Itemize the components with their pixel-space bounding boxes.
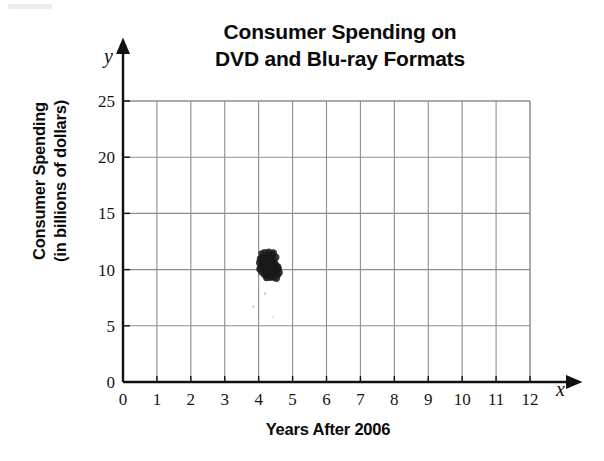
data-point [274, 271, 281, 278]
y-axis-tick-label: 5 [75, 317, 115, 337]
x-axis-tick-label: 0 [106, 390, 140, 410]
x-axis-tick-label: 1 [140, 390, 174, 410]
x-axis-tick-label: 4 [242, 390, 276, 410]
data-point [271, 263, 277, 269]
x-axis-tick-label: 3 [208, 390, 242, 410]
x-axis-tick-label: 7 [343, 390, 377, 410]
data-point [263, 273, 269, 279]
y-axis-tick-label: 15 [75, 204, 115, 224]
x-axis-tick-label: 12 [513, 390, 547, 410]
scan-artifact [264, 292, 266, 295]
x-axis-tick-label: 9 [411, 390, 445, 410]
y-axis-tick-label: 25 [75, 92, 115, 112]
data-point [269, 249, 277, 257]
data-point [258, 254, 265, 261]
x-axis-tick-label: 11 [479, 390, 513, 410]
gridlines-vertical [157, 101, 530, 382]
y-axis-tick-label: 10 [75, 261, 115, 281]
x-axis-tick-label: 2 [174, 390, 208, 410]
scan-artifact [252, 305, 255, 308]
data-point-cluster [256, 248, 283, 282]
x-axis-tick-label: 5 [276, 390, 310, 410]
y-axis-tick-label: 20 [75, 148, 115, 168]
x-axis-tick-label: 10 [445, 390, 479, 410]
scan-artifact [272, 316, 274, 318]
scan-artifact [8, 4, 52, 9]
x-axis-tick-label: 8 [377, 390, 411, 410]
x-axis-tick-label: 6 [310, 390, 344, 410]
scatter-plot-figure: Consumer Spending on DVD and Blu-ray For… [0, 0, 604, 461]
